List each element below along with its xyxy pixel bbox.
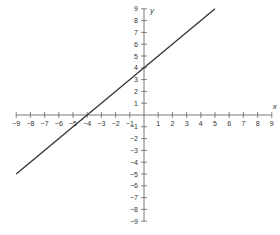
y-tick-label: −7 [130, 194, 138, 201]
data-line [16, 9, 215, 174]
y-tick-label: 2 [134, 88, 138, 95]
y-tick-label: 6 [134, 41, 138, 48]
y-tick-label: 9 [134, 5, 138, 12]
y-tick-label: −4 [130, 159, 138, 166]
x-tick-label: 4 [199, 120, 203, 127]
y-tick-label: 3 [134, 76, 138, 83]
x-tick-label: −6 [55, 120, 63, 127]
x-tick-label: 3 [185, 120, 189, 127]
y-axis-label: y [149, 6, 155, 15]
x-axis-label: x [272, 102, 278, 111]
y-tick-label: −2 [130, 135, 138, 142]
x-tick-label: 2 [170, 120, 174, 127]
x-tick-label: 8 [256, 120, 260, 127]
x-tick-label: 7 [241, 120, 245, 127]
x-tick-label: −8 [26, 120, 34, 127]
y-tick-label: 7 [134, 29, 138, 36]
x-tick-label: −9 [12, 120, 20, 127]
x-tick-label: 5 [213, 120, 217, 127]
y-tick-label: −5 [130, 171, 138, 178]
coordinate-plane: −9−8−7−6−5−4−3−2−1123456789987654321−1−2… [0, 0, 280, 235]
x-tick-label: −7 [41, 120, 49, 127]
x-tick-label: 1 [156, 120, 160, 127]
x-tick-label: −4 [83, 120, 91, 127]
y-tick-label: 1 [134, 100, 138, 107]
x-tick-label: −3 [97, 120, 105, 127]
y-tick-label: 5 [134, 53, 138, 60]
y-tick-label: −3 [130, 147, 138, 154]
y-tick-label: −8 [130, 206, 138, 213]
series-group [16, 9, 215, 174]
x-tick-label: 6 [227, 120, 231, 127]
y-tick-label: −6 [130, 182, 138, 189]
y-tick-label: −9 [130, 218, 138, 225]
y-tick-label: 4 [134, 64, 138, 71]
y-tick-label: −1 [130, 123, 138, 130]
y-tick-label: 8 [134, 17, 138, 24]
axes: −9−8−7−6−5−4−3−2−1123456789987654321−1−2… [12, 5, 274, 224]
x-tick-label: −2 [112, 120, 120, 127]
chart-svg: −9−8−7−6−5−4−3−2−1123456789987654321−1−2… [0, 0, 280, 235]
x-tick-label: 9 [270, 120, 274, 127]
